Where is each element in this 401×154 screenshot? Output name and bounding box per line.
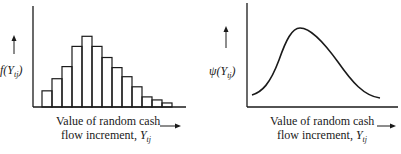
left-y-axis-label: f(Ytj)	[0, 63, 22, 82]
right-x-arrowhead-icon	[390, 124, 396, 129]
histogram-bar	[102, 58, 112, 107]
right-x-axis-label: Value of random cash flow increment, Ytj	[270, 114, 374, 147]
right-x-label-line2-text: flow increment,	[277, 128, 356, 142]
left-x-axis-label: Value of random cash flow increment, Ytj	[56, 114, 156, 147]
histogram-bar	[62, 67, 72, 107]
left-y-arrowhead-icon	[12, 35, 17, 41]
left-x-label-var: Y	[140, 128, 147, 142]
left-x-label-subscript: tj	[147, 135, 151, 144]
right-x-label-var: Y	[356, 128, 363, 142]
histogram-bar	[82, 36, 92, 107]
histogram-bar	[122, 77, 132, 107]
right-y-axis-label: ψ(Ytj)	[209, 64, 236, 83]
histogram-bar	[142, 97, 152, 107]
left-x-label-line2: flow increment, Ytj	[56, 128, 156, 147]
right-y-label-text: ψ(Y	[209, 64, 227, 78]
histogram-bar	[132, 87, 142, 107]
left-x-label-line1: Value of random cash	[56, 114, 156, 128]
histogram-chart	[12, 6, 187, 129]
right-x-label-subscript: tj	[363, 135, 367, 144]
histogram-bar	[112, 68, 122, 107]
right-x-label-line2: flow increment, Ytj	[270, 128, 374, 147]
histogram-bar	[52, 79, 62, 107]
right-x-label-line1: Value of random cash	[270, 114, 374, 128]
histogram-bar	[152, 100, 162, 107]
density-curve-chart	[224, 3, 399, 129]
histogram-bar	[42, 91, 52, 107]
left-y-label-close: )	[18, 63, 22, 77]
left-y-label-text: f(Y	[0, 63, 14, 77]
left-x-arrowhead-icon	[175, 124, 181, 129]
left-x-label-line2-text: flow increment,	[61, 128, 140, 142]
histogram-bar	[72, 46, 82, 107]
right-y-arrowhead-icon	[224, 26, 229, 32]
right-y-label-close: )	[232, 64, 236, 78]
density-curve	[252, 28, 380, 98]
histogram-bar	[92, 46, 102, 107]
histogram-bars	[42, 36, 172, 107]
